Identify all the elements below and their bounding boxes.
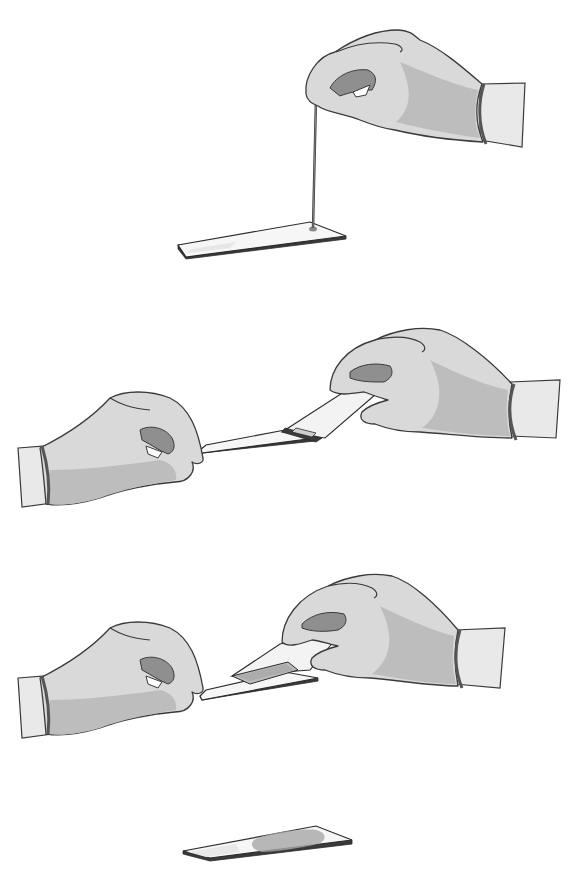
step-1-apply-drop (0, 0, 578, 290)
microscope-slide-icon (183, 826, 352, 861)
step-2-position-spreader (0, 320, 578, 520)
left-gloved-hand-icon (18, 622, 203, 738)
step-3-illustration (0, 560, 578, 760)
step-4-illustration (0, 800, 578, 886)
gloved-hand-icon (306, 30, 525, 147)
step-1-illustration (0, 0, 578, 290)
right-gloved-hand-icon (330, 328, 560, 440)
step-2-illustration (0, 320, 578, 520)
step-3-spread-smear (0, 560, 578, 760)
microscope-slide-icon (178, 222, 346, 259)
capillary-tube-icon (313, 98, 316, 228)
left-gloved-hand-icon (18, 392, 203, 507)
step-4-finished-smear (0, 800, 578, 886)
right-gloved-hand-icon (282, 574, 505, 688)
